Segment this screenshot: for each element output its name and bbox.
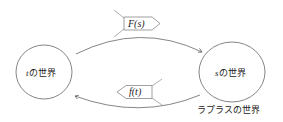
t-world-text: の世界: [29, 68, 56, 78]
forward-arrow: [76, 37, 202, 54]
t-world-label: tの世界: [26, 66, 56, 79]
s-world-label: sの世界: [215, 66, 246, 79]
laplace-world-caption: ラプラスの世界: [197, 103, 260, 116]
F-s-label: F(s): [128, 18, 145, 29]
f-t-label: f(t): [129, 86, 141, 97]
s-world-text: の世界: [219, 68, 246, 78]
